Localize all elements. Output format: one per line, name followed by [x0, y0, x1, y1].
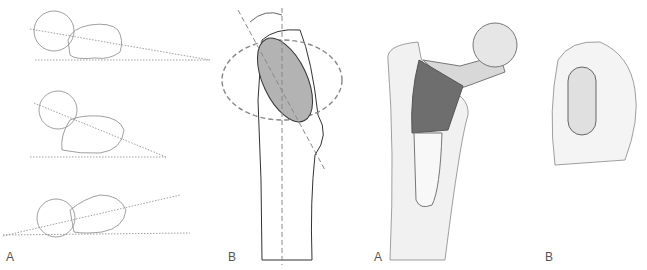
panel-4-cross-section	[552, 42, 636, 165]
panel-2-femur-angle	[222, 8, 342, 265]
panel-4-label: B	[545, 250, 553, 264]
figure-canvas	[0, 0, 647, 270]
panel-2-label: B	[228, 250, 236, 264]
panel-1-label: A	[6, 250, 14, 264]
panel-3-label: A	[374, 250, 382, 264]
panel-3-prosthesis	[388, 23, 517, 260]
panel-1-femur-views	[3, 11, 210, 237]
